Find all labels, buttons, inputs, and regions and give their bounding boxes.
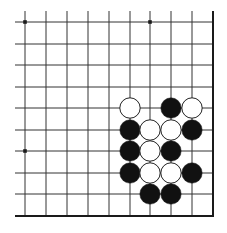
white-stone[interactable] (182, 98, 202, 118)
black-stone[interactable] (120, 163, 140, 183)
go-board[interactable] (0, 0, 227, 233)
white-stone[interactable] (140, 163, 160, 183)
white-stone[interactable] (161, 120, 181, 140)
black-stone[interactable] (161, 98, 181, 118)
white-stone[interactable] (140, 141, 160, 161)
white-stone[interactable] (161, 163, 181, 183)
white-stone[interactable] (140, 120, 160, 140)
star-point (148, 20, 152, 24)
star-point (23, 149, 27, 153)
black-stone[interactable] (120, 141, 140, 161)
star-point (23, 20, 27, 24)
white-stone[interactable] (120, 98, 140, 118)
black-stone[interactable] (140, 184, 160, 204)
black-stone[interactable] (120, 120, 140, 140)
black-stone[interactable] (182, 163, 202, 183)
black-stone[interactable] (161, 141, 181, 161)
black-stone[interactable] (182, 120, 202, 140)
black-stone[interactable] (161, 184, 181, 204)
